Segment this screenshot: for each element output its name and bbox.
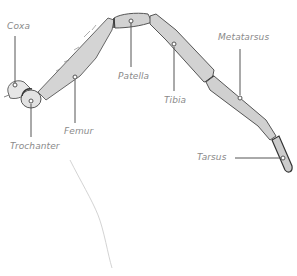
background-curve: [70, 160, 112, 268]
metatarsus-segment: [206, 76, 276, 140]
femur-segment: [38, 18, 114, 100]
tibia-segment: [150, 14, 214, 82]
label-coxa: Coxa: [7, 21, 30, 31]
label-tarsus: Tarsus: [197, 152, 226, 162]
label-trochanter: Trochanter: [10, 141, 60, 151]
tarsus-segment: [272, 136, 292, 172]
label-metatarsus: Metatarsus: [218, 32, 269, 42]
label-femur: Femur: [64, 126, 93, 136]
label-patella: Patella: [118, 71, 149, 81]
label-tibia: Tibia: [164, 95, 186, 105]
